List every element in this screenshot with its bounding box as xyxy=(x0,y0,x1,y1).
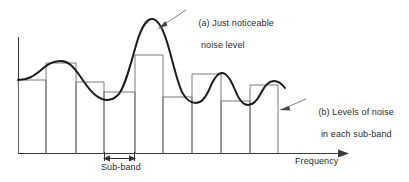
bar-9 xyxy=(250,85,278,154)
bar-5 xyxy=(135,55,163,154)
annotation-b-leader xyxy=(279,99,306,111)
annotation-b-line1: (b) Levels of noise xyxy=(318,107,393,117)
figure-container: (a) Just noticeable noise level (b) Leve… xyxy=(0,0,409,182)
annotation-a-label: (a) Just noticeable noise level xyxy=(188,7,274,73)
bar-3 xyxy=(76,82,104,154)
bar-6 xyxy=(163,97,192,154)
bar-1 xyxy=(19,80,47,154)
x-axis-label: Frequency xyxy=(295,156,338,167)
annotation-b-line2: in each sub-band xyxy=(308,129,394,140)
annotation-b-arrowhead xyxy=(279,106,291,111)
bar-2 xyxy=(46,63,76,154)
sub-band-label: Sub-band xyxy=(101,162,141,173)
annotation-a-line1: (a) Just noticeable xyxy=(198,18,273,28)
bar-8 xyxy=(221,101,250,154)
annotation-a-line2: noise level xyxy=(188,40,274,51)
annotation-a-leader xyxy=(158,10,186,29)
annotation-b-label: (b) Levels of noise in each sub-band xyxy=(308,96,394,162)
bar-7 xyxy=(192,74,221,154)
bar-4 xyxy=(104,92,135,154)
